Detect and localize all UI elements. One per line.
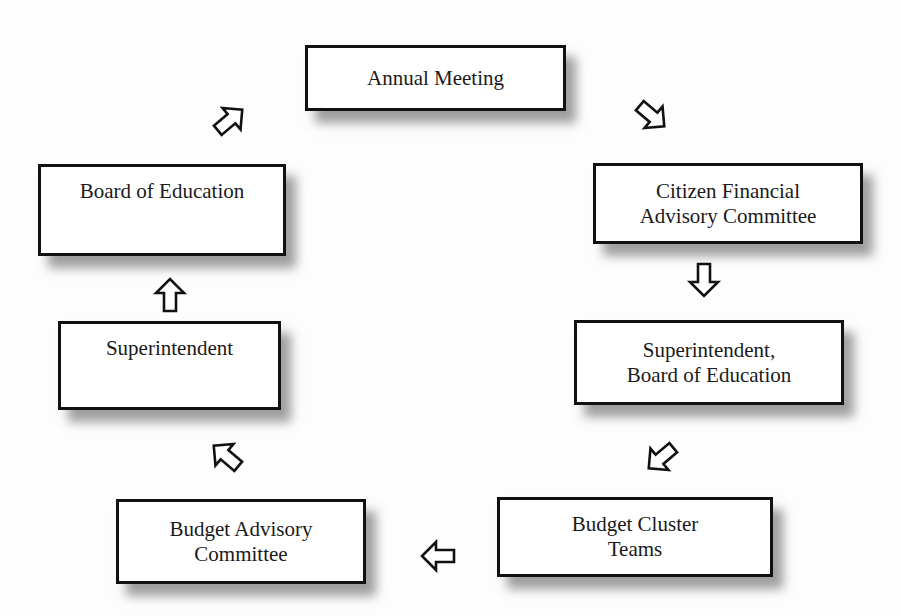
node-label-line-1: Citizen Financial [656, 179, 800, 204]
node-label-line-2: Teams [608, 537, 663, 562]
node-label: Board of Education [80, 179, 244, 204]
node-label-line-2: Advisory Committee [640, 204, 817, 229]
arrow-up-icon [150, 275, 190, 315]
node-label-line-2: Board of Education [627, 363, 791, 388]
node-label: Superintendent [106, 336, 233, 361]
arrow-left-icon [418, 536, 458, 576]
node-label-line-1: Budget Cluster [572, 512, 699, 537]
node-citizen-financial-advisory-committee: Citizen Financial Advisory Committee [593, 163, 863, 244]
arrow-down-icon [684, 260, 724, 300]
arrow-down-right-icon [624, 88, 680, 144]
node-budget-advisory-committee: Budget Advisory Committee [116, 499, 366, 584]
node-annual-meeting: Annual Meeting [305, 45, 566, 111]
node-label-line-2: Committee [194, 542, 287, 567]
arrow-down-left-icon [633, 430, 689, 486]
node-budget-cluster-teams: Budget Cluster Teams [497, 497, 773, 577]
node-label-line-1: Budget Advisory [170, 517, 313, 542]
node-board-of-education: Board of Education [38, 164, 286, 256]
node-superintendent: Superintendent [58, 321, 281, 410]
node-label: Annual Meeting [367, 66, 504, 91]
arrow-up-right-icon [202, 92, 258, 148]
budget-process-cycle-diagram: Annual Meeting Citizen Financial Advisor… [0, 0, 901, 616]
arrow-up-left-icon [198, 428, 254, 484]
node-superintendent-board-of-education: Superintendent, Board of Education [574, 320, 844, 405]
node-label-line-1: Superintendent, [643, 338, 775, 363]
